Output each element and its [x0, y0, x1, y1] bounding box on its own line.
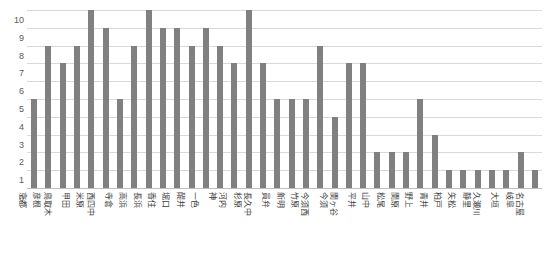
bar-slot: [27, 10, 41, 188]
bar-slot: [256, 10, 270, 188]
x-tick-label: 杉原: [233, 192, 241, 208]
bar[interactable]: [160, 28, 166, 188]
y-tick-label: 10: [14, 16, 24, 25]
bar[interactable]: [274, 99, 280, 188]
x-tick-label: 静里: [462, 192, 470, 208]
y-axis-tick-labels: 012345678910: [0, 10, 24, 188]
bar-slot: [370, 10, 384, 188]
y-tick-label: 3: [19, 140, 24, 149]
bar[interactable]: [289, 99, 295, 188]
y-tick-label: 4: [19, 122, 24, 131]
x-tick-label: 米原: [75, 192, 83, 208]
bar[interactable]: [332, 117, 338, 188]
bar-slot: [213, 10, 227, 188]
x-tick-label: 今須: [319, 192, 327, 208]
bar[interactable]: [203, 28, 209, 188]
y-tick-label: 7: [19, 69, 24, 78]
bar[interactable]: [317, 46, 323, 188]
x-tick-label: 神: [208, 192, 216, 200]
bar[interactable]: [103, 28, 109, 188]
x-tick-label: 長久中: [243, 192, 251, 216]
x-tick-label: 堀口: [161, 192, 169, 208]
bar[interactable]: [389, 152, 395, 188]
bar-slot: [99, 10, 113, 188]
x-tick-label: 竹原: [290, 192, 298, 208]
x-label-slot: 名古屋: [528, 190, 542, 260]
bar[interactable]: [260, 63, 266, 188]
bar[interactable]: [303, 99, 309, 188]
bar-slot: [41, 10, 55, 188]
bar[interactable]: [231, 63, 237, 188]
bar[interactable]: [360, 63, 366, 188]
bar-slot: [513, 10, 527, 188]
x-tick-label: 員弁: [261, 192, 269, 208]
bar[interactable]: [31, 99, 37, 188]
bar[interactable]: [189, 46, 195, 188]
bar[interactable]: [374, 152, 380, 188]
bar-slot: [399, 10, 413, 188]
bar[interactable]: [532, 170, 538, 188]
bar-slot: [270, 10, 284, 188]
bar[interactable]: [475, 170, 481, 188]
bar[interactable]: [174, 28, 180, 188]
bar-slot: [56, 10, 70, 188]
x-tick-label: 河内: [218, 192, 226, 208]
bar[interactable]: [346, 63, 352, 188]
bar-slot: [456, 10, 470, 188]
x-tick-label: 長浜: [133, 192, 141, 208]
bar-slot: [84, 10, 98, 188]
bar[interactable]: [45, 46, 51, 188]
bar-slot: [470, 10, 484, 188]
x-tick-label: 一色: [190, 192, 198, 208]
bar[interactable]: [432, 135, 438, 188]
x-axis-category-labels: 京都彦根鳥取木甲田米原西四中寺倉高浜長浜香住堀口醍井一色神河内杉原長久中員弁新明…: [27, 190, 542, 260]
bar-slot: [127, 10, 141, 188]
bar[interactable]: [74, 46, 80, 188]
x-tick-label: 香住: [147, 192, 155, 208]
bar[interactable]: [146, 10, 152, 188]
x-tick-label: 久瀬川: [472, 192, 480, 216]
bar-slot: [242, 10, 256, 188]
bar[interactable]: [88, 10, 94, 188]
x-tick-label: 京都: [18, 192, 26, 208]
x-tick-label: 平井: [347, 192, 355, 208]
y-tick-label: 8: [19, 51, 24, 60]
bar-slot: [413, 10, 427, 188]
plot-area: [27, 10, 542, 188]
x-tick-label: 名古屋: [515, 192, 523, 216]
bar[interactable]: [446, 170, 452, 188]
x-tick-label: 矢松: [447, 192, 455, 208]
bar[interactable]: [460, 170, 466, 188]
bar[interactable]: [417, 99, 423, 188]
y-tick-label: 9: [19, 33, 24, 42]
x-tick-label: 青井: [419, 192, 427, 208]
x-tick-label: 鳥取木: [43, 192, 51, 216]
bar[interactable]: [403, 152, 409, 188]
bar-slot: [285, 10, 299, 188]
bar[interactable]: [217, 46, 223, 188]
gridline: [27, 188, 542, 189]
x-tick-label: 彦根: [32, 192, 40, 208]
bar[interactable]: [131, 46, 137, 188]
bar-slot: [313, 10, 327, 188]
bar-slot: [485, 10, 499, 188]
bar-slot: [356, 10, 370, 188]
bar-slot: [327, 10, 341, 188]
bar-slot: [141, 10, 155, 188]
bar[interactable]: [489, 170, 495, 188]
bar[interactable]: [60, 63, 66, 188]
bar-slot: [184, 10, 198, 188]
bar-slot: [385, 10, 399, 188]
y-tick-label: 2: [19, 158, 24, 167]
bar[interactable]: [503, 170, 509, 188]
bar[interactable]: [246, 10, 252, 188]
bar-slot: [299, 10, 313, 188]
y-tick-label: 1: [19, 176, 24, 185]
x-tick-label: 野上: [404, 192, 412, 208]
bar[interactable]: [117, 99, 123, 188]
x-tick-label: 柏戸: [433, 192, 441, 208]
x-tick-label: 関原: [390, 192, 398, 208]
x-tick-label: 関ヶ谷: [329, 192, 337, 216]
bar[interactable]: [518, 152, 524, 188]
x-tick-label: 西四中: [86, 192, 94, 216]
